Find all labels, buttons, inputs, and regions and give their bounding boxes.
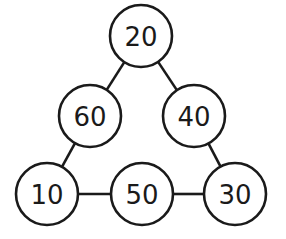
node-bottom-middle: 50 xyxy=(111,163,173,225)
node-bottom-left: 10 xyxy=(16,163,78,225)
edge-top-to-mid-left xyxy=(107,62,125,90)
node-label: 50 xyxy=(125,180,158,210)
node-top: 20 xyxy=(110,5,172,67)
node-label: 40 xyxy=(177,102,210,132)
node-label: 30 xyxy=(218,180,251,210)
node-mid-right: 40 xyxy=(163,85,225,147)
node-bottom-right: 30 xyxy=(204,163,266,225)
edge-top-to-mid-right xyxy=(158,62,177,90)
edge-mid-left-to-bottom-left xyxy=(62,143,75,167)
nodes-group: 206040105030 xyxy=(16,5,266,225)
node-label: 10 xyxy=(30,180,63,210)
node-mid-left: 60 xyxy=(59,85,121,147)
triangle-diagram: 206040105030 xyxy=(0,0,286,239)
node-label: 20 xyxy=(124,22,157,52)
node-label: 60 xyxy=(73,102,106,132)
edge-mid-right-to-bottom-right xyxy=(208,143,220,166)
